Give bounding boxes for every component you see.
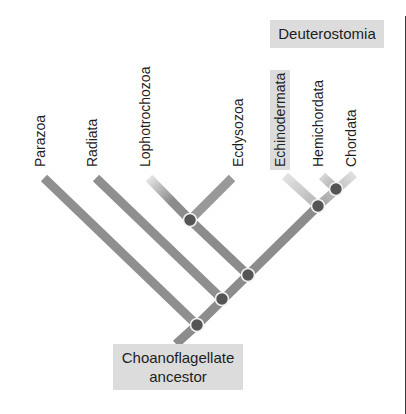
clade-label-deuterostomia: Deuterostomia bbox=[270, 20, 384, 48]
taxon-label-lophotrochozoa: Lophotrochozoa bbox=[135, 64, 155, 170]
taxon-label-chordata: Chordata bbox=[341, 106, 361, 170]
node-radiata-split bbox=[216, 293, 229, 306]
branch-lophotrochozoa bbox=[149, 178, 190, 220]
node-bilateria-split bbox=[242, 269, 255, 282]
root-label-line-1: Choanoflagellate bbox=[113, 348, 243, 367]
cladogram: Deuterostomia Parazoa Radiata Lophotroch… bbox=[0, 0, 406, 414]
branch-protostomia bbox=[190, 220, 248, 275]
root-label-line-2: ancestor bbox=[113, 367, 243, 386]
node-deuterostome-split bbox=[312, 200, 325, 213]
node-protostome-split bbox=[184, 214, 197, 227]
taxon-label-hemichordata: Hemichordata bbox=[308, 77, 328, 170]
taxon-label-radiata: Radiata bbox=[82, 116, 102, 170]
branch-ecdysozoa bbox=[190, 178, 232, 220]
branch-spine bbox=[197, 206, 318, 325]
root-label-choanoflagellate-ancestor: Choanoflagellate ancestor bbox=[113, 344, 243, 390]
node-hemichordata-chordata-split bbox=[330, 183, 343, 196]
taxon-label-echinodermata: Echinodermata bbox=[270, 70, 290, 170]
taxon-label-ecdysozoa: Ecdysozoa bbox=[228, 96, 248, 170]
node-parazoa-split bbox=[191, 319, 204, 332]
taxon-label-parazoa: Parazoa bbox=[30, 112, 50, 170]
